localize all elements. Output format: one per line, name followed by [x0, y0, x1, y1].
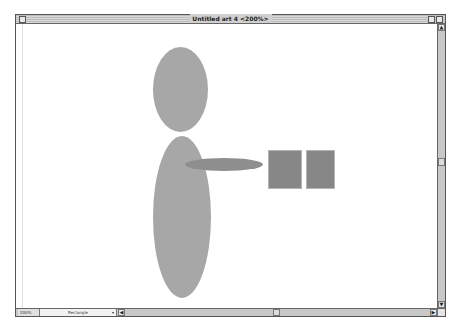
horizontal-scroll-thumb[interactable] [273, 309, 280, 316]
zoom-level-field[interactable]: 200% [18, 309, 40, 316]
square-left[interactable] [268, 150, 302, 189]
scroll-left-arrow-icon[interactable]: ◀ [118, 309, 125, 316]
current-tool-dropdown[interactable]: Rectangle ▾ [40, 309, 117, 316]
window-title: Untitled art 4 <200%> [189, 14, 271, 23]
resize-grip-icon[interactable] [437, 309, 445, 316]
collapse-box-icon[interactable] [436, 16, 443, 23]
square-right[interactable] [306, 150, 335, 189]
scroll-right-arrow-icon[interactable]: ▶ [430, 309, 437, 316]
current-tool-label: Rectangle [68, 310, 88, 315]
page-margin-line [22, 24, 23, 308]
scroll-up-arrow-icon[interactable]: ▲ [438, 24, 445, 31]
vertical-scroll-thumb[interactable] [438, 158, 445, 166]
status-and-horizontal-scroll-bar: 200% Rectangle ▾ ◀ ▶ [16, 308, 445, 316]
arm-ellipse[interactable] [185, 158, 263, 171]
head-ellipse[interactable] [153, 47, 208, 132]
artboard-canvas[interactable] [16, 24, 437, 308]
title-bar[interactable]: Untitled art 4 <200%> [16, 15, 445, 24]
vertical-scrollbar[interactable]: ▲ ▼ [437, 24, 445, 308]
zoom-box-icon[interactable] [428, 16, 435, 23]
scroll-down-arrow-icon[interactable]: ▼ [438, 301, 445, 308]
close-box-icon[interactable] [19, 16, 26, 23]
document-window: Untitled art 4 <200%> ▲ ▼ 200% Rectangle… [15, 14, 446, 317]
dropdown-arrow-icon: ▾ [112, 309, 114, 316]
